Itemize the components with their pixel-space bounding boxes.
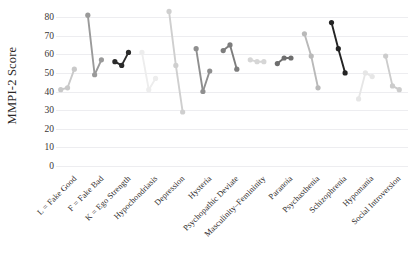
data-point xyxy=(288,55,293,60)
series-line xyxy=(88,15,95,75)
data-point xyxy=(356,96,361,101)
series-line xyxy=(338,49,345,73)
y-tick-label: 40 xyxy=(30,87,54,97)
data-point xyxy=(126,50,131,55)
plot-area xyxy=(56,14,408,169)
series-line xyxy=(169,11,176,65)
y-tick-label: 10 xyxy=(30,142,54,152)
series-group xyxy=(248,57,267,64)
data-point xyxy=(383,54,388,59)
data-point xyxy=(139,50,144,55)
data-point xyxy=(207,68,212,73)
data-point xyxy=(370,74,375,79)
series-group xyxy=(302,31,321,90)
series-group xyxy=(275,55,294,66)
data-point xyxy=(153,76,158,81)
series-group xyxy=(166,9,185,115)
x-tick-label: Social Introversion xyxy=(350,174,403,227)
series-line xyxy=(386,56,393,86)
series-line xyxy=(68,69,75,88)
data-point xyxy=(336,46,341,51)
data-point xyxy=(85,13,90,18)
data-point xyxy=(254,59,259,64)
data-point xyxy=(275,61,280,66)
data-point xyxy=(166,9,171,14)
data-point xyxy=(173,63,178,68)
data-point xyxy=(119,63,124,68)
data-point xyxy=(390,83,395,88)
data-point xyxy=(72,67,77,72)
y-tick-label: 70 xyxy=(30,31,54,41)
data-point xyxy=(343,70,348,75)
series-line xyxy=(203,71,210,91)
series-line xyxy=(142,52,149,89)
y-tick-label: 80 xyxy=(30,12,54,22)
data-point xyxy=(92,72,97,77)
series-group xyxy=(85,13,104,78)
series-group xyxy=(329,20,348,75)
y-axis-title: MMPI-2 Score xyxy=(2,0,24,170)
data-point xyxy=(261,59,266,64)
data-point xyxy=(282,55,287,60)
data-point xyxy=(227,42,232,47)
series-group xyxy=(194,46,213,94)
series-group xyxy=(383,54,402,93)
data-point xyxy=(194,46,199,51)
data-point xyxy=(99,57,104,62)
data-point xyxy=(248,57,253,62)
series-group xyxy=(356,70,375,101)
data-point xyxy=(234,67,239,72)
series-group xyxy=(58,67,77,93)
series-canvas xyxy=(56,14,408,169)
y-tick-label: 20 xyxy=(30,124,54,134)
series-line xyxy=(176,65,183,112)
data-point xyxy=(65,85,70,90)
mmpi-profile-chart: MMPI-2 Score 80706050403020100 L = Fake … xyxy=(0,0,415,259)
series-line xyxy=(311,56,318,88)
series-line xyxy=(359,73,366,99)
data-point xyxy=(309,54,314,59)
data-point xyxy=(146,87,151,92)
data-point xyxy=(221,48,226,53)
y-tick-label: 50 xyxy=(30,68,54,78)
series-line xyxy=(332,23,339,49)
series-line xyxy=(196,49,203,92)
series-group xyxy=(221,42,240,71)
data-point xyxy=(397,87,402,92)
data-point xyxy=(329,20,334,25)
data-point xyxy=(302,31,307,36)
data-point xyxy=(112,59,117,64)
series-line xyxy=(304,34,311,56)
series-group xyxy=(112,50,131,68)
data-point xyxy=(180,109,185,114)
y-tick-label: 60 xyxy=(30,49,54,59)
y-axis-ticks: 80706050403020100 xyxy=(28,0,54,180)
data-point xyxy=(315,85,320,90)
data-point xyxy=(363,70,368,75)
series-group xyxy=(139,50,158,92)
data-point xyxy=(58,87,63,92)
x-axis-labels: L = Fake GoodF = Fake BadK = Ego Strengt… xyxy=(0,170,415,259)
series-line xyxy=(230,45,237,69)
y-tick-label: 30 xyxy=(30,105,54,115)
data-point xyxy=(200,89,205,94)
